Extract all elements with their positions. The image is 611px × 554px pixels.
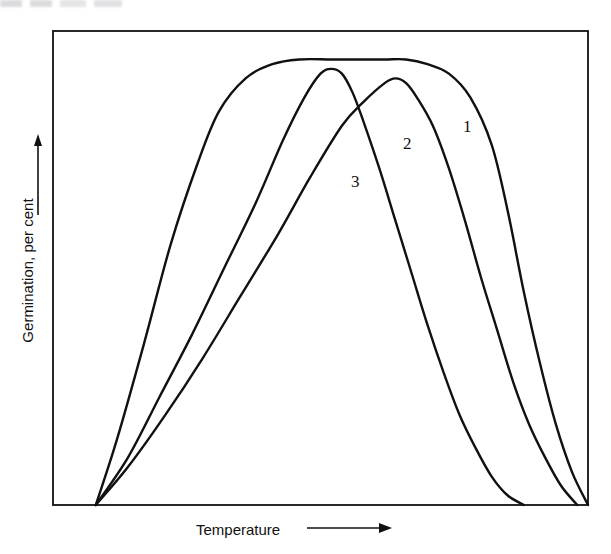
germination-temperature-figure: Germination, per cent Temperature 1 2 3 [0,0,611,554]
plot-frame [53,31,588,505]
y-axis-arrow-icon [34,134,42,215]
curves-group [96,59,588,505]
x-axis-arrow-icon [307,523,392,533]
curve-2 [96,78,578,505]
plot-canvas [0,0,611,554]
